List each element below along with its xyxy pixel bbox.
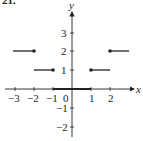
y-tick-label: 1: [61, 64, 67, 76]
endpoint-dot: [89, 68, 93, 72]
y-axis-label: y: [68, 0, 74, 11]
y-tick-label: −2: [56, 121, 68, 133]
step-function-graph: −3 −2 −1 0 1 2 3 2 1 −1 −2 x y: [0, 0, 143, 141]
y-tick-label: 3: [61, 27, 67, 39]
endpoint-dot: [32, 49, 36, 53]
x-tick-label: 1: [89, 92, 95, 104]
endpoint-dot: [51, 68, 55, 72]
endpoint-dot: [108, 49, 112, 53]
y-tick-label: −1: [56, 102, 68, 114]
y-tick-label: 2: [61, 45, 67, 57]
x-axis-label: x: [135, 83, 141, 95]
x-tick-label: −2: [27, 92, 39, 104]
x-tick-label: −3: [8, 92, 20, 104]
x-tick-label: 2: [108, 92, 114, 104]
